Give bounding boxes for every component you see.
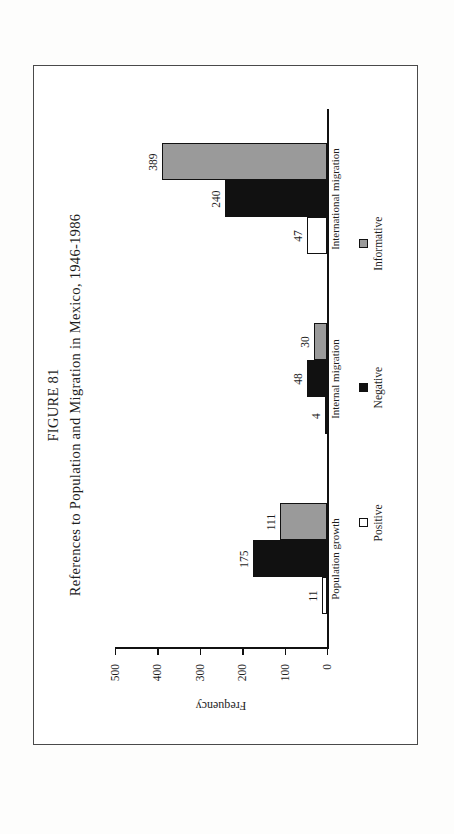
value-axis-tick-label: 100 xyxy=(278,664,290,681)
bar-value-label: 47 xyxy=(292,230,304,242)
bar-value-label: 48 xyxy=(291,373,303,385)
figure-number: FIGURE 81 xyxy=(45,75,62,735)
bar-value-label: 389 xyxy=(147,153,159,170)
bar-informative: 389 xyxy=(162,144,327,181)
figure-caption: References to Population and Migration i… xyxy=(67,75,84,735)
category-axis-label: Internal migration xyxy=(329,339,341,419)
value-axis-tick: 200 xyxy=(242,649,243,655)
bar-value-label: 4 xyxy=(310,413,322,419)
bar-value-label: 175 xyxy=(237,550,249,567)
bar-positive: 11 xyxy=(322,578,327,615)
bar-value-label: 240 xyxy=(210,190,222,207)
bar-value-label: 111 xyxy=(264,514,276,530)
plot-area: 0100200300400500 Frequency 11175111Popul… xyxy=(115,109,327,649)
value-axis-tick-label: 200 xyxy=(236,664,248,681)
value-axis-tick-label: 0 xyxy=(321,664,333,670)
value-axis-tick-label: 400 xyxy=(151,664,163,681)
bar-negative: 48 xyxy=(306,361,326,398)
bar-negative: 240 xyxy=(225,181,327,218)
bar-group: 47240389International migration xyxy=(115,109,327,289)
bar-value-label: 11 xyxy=(307,590,319,601)
legend-swatch-negative-icon xyxy=(359,383,368,392)
legend-swatch-positive-icon xyxy=(359,518,368,527)
value-axis-tick: 400 xyxy=(157,649,158,655)
value-axis-tick: 500 xyxy=(115,649,116,655)
value-axis-tick-label: 500 xyxy=(109,664,121,681)
legend-item-negative: Negative xyxy=(359,367,384,409)
category-axis-label: Population growth xyxy=(329,518,341,600)
legend-item-positive: Positive xyxy=(359,504,384,541)
bar-positive: 47 xyxy=(307,218,327,255)
value-axis-title: Frequency xyxy=(195,698,246,713)
legend-label: Negative xyxy=(372,367,384,409)
rotated-chart-canvas: FIGURE 81 References to Population and M… xyxy=(41,75,411,735)
legend-label: Informative xyxy=(372,217,384,271)
bar-informative: 30 xyxy=(314,324,327,361)
legend-item-informative: Informative xyxy=(359,217,384,271)
bar-informative: 111 xyxy=(279,504,326,541)
value-axis-tick-label: 300 xyxy=(193,664,205,681)
legend-swatch-informative-icon xyxy=(359,239,368,248)
value-axis-tick: 300 xyxy=(199,649,200,655)
bar-value-label: 30 xyxy=(299,336,311,348)
legend-label: Positive xyxy=(372,504,384,541)
category-axis-label: International migration xyxy=(329,148,341,250)
chart-legend: PositiveNegativeInformative xyxy=(359,109,384,649)
value-axis-tick: 100 xyxy=(284,649,285,655)
value-axis-tick: 0 xyxy=(327,649,328,655)
bar-group: 11175111Population growth xyxy=(115,469,327,649)
figure-frame: FIGURE 81 References to Population and M… xyxy=(33,65,418,745)
bar-group: 44830Internal migration xyxy=(115,289,327,469)
bar-negative: 175 xyxy=(252,541,326,578)
bar-positive: 4 xyxy=(325,398,327,435)
